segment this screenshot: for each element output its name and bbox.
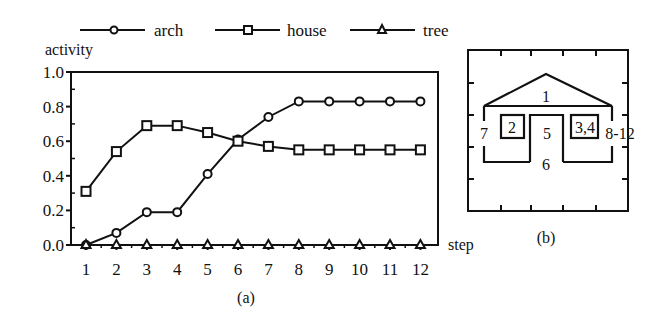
caption-b: (b) [537,229,556,247]
square-marker-icon [142,121,151,130]
triangle-marker-icon [234,240,243,248]
label-left-wall: 7 [480,125,488,142]
line-chart-panel-a: activity step (a) 0.00.20.40.60.81.01234… [43,41,474,307]
x-tick-label: 7 [264,260,273,279]
circle-marker-icon [295,97,303,105]
square-marker-icon [416,145,425,154]
x-tick-label: 2 [112,260,121,279]
house-diagram-panel-b: 1 2 5 3,4 6 7 8-12 (b) [468,50,635,247]
triangle-marker-icon [203,240,212,248]
circle-marker-icon [416,97,424,105]
y-axis-label: activity [45,41,93,59]
x-tick-label: 10 [351,260,368,279]
circle-marker-icon [356,97,364,105]
square-marker-icon [355,145,364,154]
figure-canvas: arch house tree activity step (a) 0.00.2… [0,0,662,321]
y-tick-label: 0.8 [43,98,64,117]
label-door: 5 [543,125,551,142]
circle-marker-icon [386,97,394,105]
circle-marker-icon [111,27,118,34]
triangle-marker-icon [112,240,121,248]
legend-item-arch: arch [80,21,184,40]
label-base: 6 [542,156,550,173]
label-right-wall: 8-12 [605,125,634,142]
label-right-window: 3,4 [575,119,595,136]
series-line-arch [86,101,420,245]
x-tick-label: 8 [295,260,304,279]
circle-marker-icon [143,208,151,216]
square-marker-icon [386,145,395,154]
circle-marker-icon [173,208,181,216]
caption-a: (a) [237,289,255,307]
plot-frame [71,72,438,245]
square-marker-icon [112,147,121,156]
triangle-marker-icon [264,240,273,248]
label-roof: 1 [542,88,550,105]
square-marker-icon [325,145,334,154]
triangle-marker-icon [325,240,334,248]
y-tick-label: 0.0 [43,236,64,255]
y-tick-label: 0.2 [43,201,64,220]
series-line-house [86,126,420,192]
x-tick-label: 11 [382,260,398,279]
triangle-marker-icon [142,240,151,248]
legend-item-tree: tree [350,21,448,40]
circle-marker-icon [112,229,120,237]
square-marker-icon [234,137,243,146]
square-marker-icon [264,142,273,151]
right-wall-lower [563,146,612,162]
legend-item-house: house [215,21,327,40]
x-tick-label: 1 [82,260,91,279]
circle-marker-icon [325,97,333,105]
left-wall-lower [484,146,530,162]
label-left-window: 2 [508,119,516,136]
x-tick-label: 12 [412,260,429,279]
legend-label-house: house [287,21,327,40]
square-marker-icon [82,187,91,196]
triangle-marker-icon [386,240,395,248]
y-tick-label: 0.6 [43,132,64,151]
legend-label-arch: arch [154,21,184,40]
circle-marker-icon [264,113,272,121]
triangle-marker-icon [355,240,364,248]
square-marker-icon [244,26,252,34]
square-marker-icon [294,145,303,154]
triangle-marker-icon [416,240,425,248]
triangle-marker-icon [378,25,386,33]
plot-area: 0.00.20.40.60.81.0123456789101112 [43,63,438,279]
x-axis-label: step [448,236,474,254]
x-tick-label: 4 [173,260,182,279]
y-tick-label: 1.0 [43,63,64,82]
triangle-marker-icon [173,240,182,248]
square-marker-icon [203,128,212,137]
x-tick-label: 6 [234,260,243,279]
legend-label-tree: tree [423,21,448,40]
y-tick-label: 0.4 [43,167,65,186]
x-tick-label: 3 [143,260,152,279]
square-marker-icon [173,121,182,130]
circle-marker-icon [204,170,212,178]
triangle-marker-icon [294,240,303,248]
legend: arch house tree [80,21,448,40]
x-tick-label: 5 [203,260,212,279]
x-tick-label: 9 [325,260,334,279]
